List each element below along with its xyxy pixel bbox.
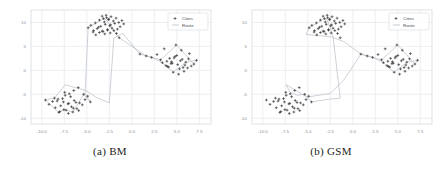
x-tick-label: 2.5 xyxy=(151,129,158,134)
y-tick-label: 10 xyxy=(242,20,247,25)
subfigure-gsm: -10.0-7.5-5.0-2.50.02.55.07.5-10-50510Ci… xyxy=(221,0,441,178)
x-tick-label: -2.5 xyxy=(327,129,335,134)
x-tick-label: -5.0 xyxy=(304,129,312,134)
y-tick-label: 0 xyxy=(24,68,27,73)
y-tick-label: -10 xyxy=(20,116,27,121)
subfigure-bm: -10.0-7.5-5.0-2.50.02.55.07.5-10-50510Ci… xyxy=(0,0,220,178)
x-tick-label: -10.0 xyxy=(37,129,48,134)
x-tick-label: 5.0 xyxy=(174,129,181,134)
legend-label-route: Route xyxy=(403,23,415,28)
legend: CitiesRoute xyxy=(168,13,208,30)
x-tick-label: -2.5 xyxy=(106,129,114,134)
y-tick-label: 10 xyxy=(21,20,26,25)
legend-label-cities: Cities xyxy=(182,16,194,21)
x-tick-label: 7.5 xyxy=(196,129,203,134)
scatter-plot-gsm: -10.0-7.5-5.0-2.50.02.55.07.5-10-50510Ci… xyxy=(221,0,441,148)
legend: CitiesRoute xyxy=(389,13,429,30)
y-tick-label: 0 xyxy=(245,68,248,73)
x-tick-label: -10.0 xyxy=(258,129,269,134)
x-tick-label: 0.0 xyxy=(350,129,357,134)
figure-row: -10.0-7.5-5.0-2.50.02.55.07.5-10-50510Ci… xyxy=(0,0,441,178)
y-tick-label: 5 xyxy=(245,44,248,49)
x-tick-label: 2.5 xyxy=(372,129,379,134)
y-tick-label: -5 xyxy=(243,92,247,97)
plot-area-gsm: -10.0-7.5-5.0-2.50.02.55.07.5-10-50510Ci… xyxy=(221,0,441,148)
x-tick-label: -5.0 xyxy=(83,129,91,134)
x-tick-label: -7.5 xyxy=(61,129,69,134)
x-tick-label: 7.5 xyxy=(417,129,424,134)
legend-label-route: Route xyxy=(182,23,194,28)
y-tick-label: 5 xyxy=(24,44,27,49)
y-tick-label: -10 xyxy=(241,116,248,121)
x-tick-label: -7.5 xyxy=(282,129,290,134)
legend-label-cities: Cities xyxy=(403,16,415,21)
y-tick-label: -5 xyxy=(22,92,26,97)
x-tick-label: 0.0 xyxy=(129,129,136,134)
x-tick-label: 5.0 xyxy=(395,129,402,134)
plot-area-bm: -10.0-7.5-5.0-2.50.02.55.07.5-10-50510Ci… xyxy=(0,0,220,148)
scatter-plot-bm: -10.0-7.5-5.0-2.50.02.55.07.5-10-50510Ci… xyxy=(0,0,220,148)
